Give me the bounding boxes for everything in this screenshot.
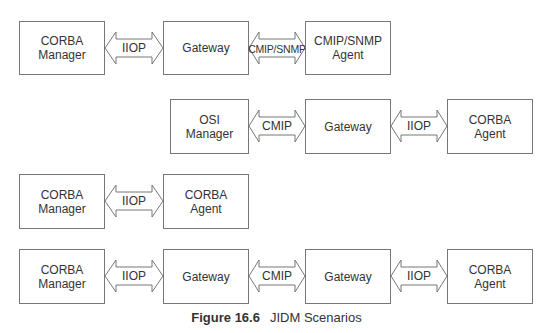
row4-iiop-arrow-right: IIOP xyxy=(390,259,448,293)
arrow-label: CMIP/SNMP xyxy=(248,42,306,56)
arrow-label: IIOP xyxy=(390,269,448,283)
row4-corba-manager-box: CORBA Manager xyxy=(19,249,105,304)
figure-caption: Figure 16.6JIDM Scenarios xyxy=(0,310,553,325)
row4-cmip-arrow: CMIP xyxy=(248,259,306,293)
box-label: CORBA xyxy=(469,263,512,277)
box-label: Agent xyxy=(190,202,221,216)
figure-title: JIDM Scenarios xyxy=(270,310,362,325)
arrow-label: CMIP xyxy=(248,119,306,133)
box-label: Gateway xyxy=(182,270,229,284)
arrow-label: CMIP xyxy=(248,269,306,283)
box-label: Agent xyxy=(332,48,363,62)
row1-corba-manager-box: CORBA Manager xyxy=(19,21,105,75)
row1-iiop-arrow: IIOP xyxy=(104,31,164,65)
row3-corba-manager-box: CORBA Manager xyxy=(19,174,105,229)
box-label: CORBA xyxy=(185,188,228,202)
row4-gateway-box-2: Gateway xyxy=(305,249,391,304)
row2-cmip-arrow: CMIP xyxy=(248,109,306,143)
box-label: CORBA xyxy=(41,263,84,277)
row4-corba-agent-box: CORBA Agent xyxy=(447,249,533,304)
row4-gateway-box-1: Gateway xyxy=(163,249,249,304)
row1-cmip-snmp-agent-box: CMIP/SNMP Agent xyxy=(305,21,391,75)
arrow-label: IIOP xyxy=(104,41,164,55)
box-label: OSI xyxy=(199,113,220,127)
box-label: CORBA xyxy=(41,34,84,48)
row2-osi-manager-box: OSI Manager xyxy=(170,99,249,154)
row2-iiop-arrow: IIOP xyxy=(390,109,448,143)
row4-iiop-arrow-left: IIOP xyxy=(104,259,164,293)
row3-iiop-arrow: IIOP xyxy=(104,184,164,218)
box-label: Gateway xyxy=(324,270,371,284)
arrow-label: IIOP xyxy=(390,119,448,133)
box-label: Manager xyxy=(38,48,85,62)
box-label: CMIP/SNMP xyxy=(314,34,382,48)
row2-corba-agent-box: CORBA Agent xyxy=(447,99,533,154)
row3-corba-agent-box: CORBA Agent xyxy=(163,174,249,229)
box-label: Gateway xyxy=(324,120,371,134)
box-label: Agent xyxy=(474,277,505,291)
box-label: Manager xyxy=(186,127,233,141)
box-label: CORBA xyxy=(41,188,84,202)
figure-number: Figure 16.6 xyxy=(191,310,260,325)
box-label: Agent xyxy=(474,127,505,141)
arrow-label: IIOP xyxy=(104,269,164,283)
row1-gateway-box: Gateway xyxy=(163,21,249,75)
row2-gateway-box: Gateway xyxy=(305,99,391,154)
box-label: Manager xyxy=(38,277,85,291)
row1-cmip-snmp-arrow: CMIP/SNMP xyxy=(248,31,306,65)
arrow-label: IIOP xyxy=(104,194,164,208)
box-label: Gateway xyxy=(182,41,229,55)
box-label: CORBA xyxy=(469,113,512,127)
box-label: Manager xyxy=(38,202,85,216)
